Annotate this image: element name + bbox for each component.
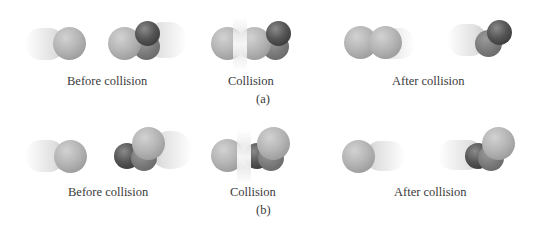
panel-label: (b): [256, 203, 271, 218]
collision-burst-icon: [233, 18, 247, 70]
atom-dark: [266, 21, 291, 46]
stage-label: Before collision: [67, 74, 147, 89]
atom-light: [132, 127, 165, 160]
atom-light: [369, 26, 402, 59]
atom-light: [53, 27, 86, 60]
atom-dark: [487, 20, 512, 45]
stage-label: Collision: [230, 185, 276, 200]
stage-label: Collision: [228, 74, 274, 89]
atom-light: [482, 127, 515, 160]
atom-light: [54, 140, 87, 173]
stage-label: After collision: [392, 74, 465, 89]
atom-light: [342, 140, 375, 173]
atom-light: [257, 127, 290, 160]
stage-label: Before collision: [68, 185, 148, 200]
stage-label: After collision: [394, 185, 467, 200]
panel-label: (a): [256, 92, 270, 107]
atom-dark: [135, 21, 160, 46]
collision-burst-icon: [237, 130, 251, 184]
